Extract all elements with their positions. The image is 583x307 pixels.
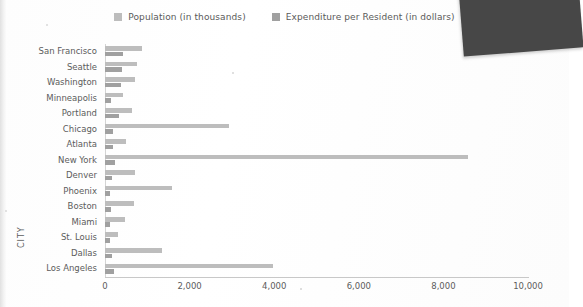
x-axis-tick-labels: 02,0004,0006,0008,00010,000 xyxy=(0,281,569,301)
bar-group xyxy=(105,106,528,122)
bar-group xyxy=(105,153,528,169)
bar-group xyxy=(105,230,528,246)
scan-shadow-artifact xyxy=(459,0,583,57)
y-axis-tick-labels: San FranciscoSeattleWashingtonMinneapoli… xyxy=(0,44,101,277)
bar-population[interactable] xyxy=(105,170,135,175)
y-axis-category-label: San Francisco xyxy=(0,44,101,60)
legend-swatch-icon xyxy=(272,13,280,21)
bar-expenditure[interactable] xyxy=(105,98,111,103)
plot-area xyxy=(105,44,528,277)
bar-group xyxy=(105,75,528,91)
bar-expenditure[interactable] xyxy=(105,114,119,119)
y-axis-category-label: Miami xyxy=(0,215,101,231)
y-axis-title: CITY xyxy=(17,226,26,248)
legend-label: Population (in thousands) xyxy=(128,12,246,22)
bar-population[interactable] xyxy=(105,77,135,82)
bar-population[interactable] xyxy=(105,62,137,67)
y-axis-category-label: Los Angeles xyxy=(0,261,101,277)
y-axis-category-label: Boston xyxy=(0,199,101,215)
y-axis-category-label: Dallas xyxy=(0,246,101,262)
bar-expenditure[interactable] xyxy=(105,222,110,227)
bar-expenditure[interactable] xyxy=(105,254,112,259)
x-axis-tick-label: 2,000 xyxy=(177,281,201,291)
bar-expenditure[interactable] xyxy=(105,129,113,134)
bar-expenditure[interactable] xyxy=(105,238,110,243)
bar-population[interactable] xyxy=(105,93,123,98)
bar-group xyxy=(105,137,528,153)
bar-group xyxy=(105,199,528,215)
y-axis-category-label: Washington xyxy=(0,75,101,91)
bar-expenditure[interactable] xyxy=(105,67,122,72)
legend-swatch-icon xyxy=(114,13,122,21)
bar-population[interactable] xyxy=(105,201,134,206)
bar-population[interactable] xyxy=(105,124,229,129)
y-axis-category-label: New York xyxy=(0,153,101,169)
bar-expenditure[interactable] xyxy=(105,191,110,196)
y-axis-category-label: Minneapolis xyxy=(0,91,101,107)
bar-group xyxy=(105,184,528,200)
scan-speck xyxy=(232,72,234,74)
legend-item[interactable]: Population (in thousands) xyxy=(114,12,246,22)
bar-population[interactable] xyxy=(105,217,125,222)
y-axis-category-label: Denver xyxy=(0,168,101,184)
y-axis-category-label: Portland xyxy=(0,106,101,122)
x-axis-line xyxy=(105,277,529,278)
bar-group xyxy=(105,246,528,262)
bar-population[interactable] xyxy=(105,232,118,237)
x-axis-tick-label: 0 xyxy=(102,281,107,291)
bar-expenditure[interactable] xyxy=(105,176,112,181)
y-axis-category-label: Phoenix xyxy=(0,184,101,200)
bar-group xyxy=(105,261,528,277)
bar-population[interactable] xyxy=(105,108,132,113)
bar-expenditure[interactable] xyxy=(105,145,113,150)
bar-group xyxy=(105,60,528,76)
bar-group xyxy=(105,215,528,231)
bar-group xyxy=(105,91,528,107)
x-axis-tick-label: 8,000 xyxy=(431,281,455,291)
bar-population[interactable] xyxy=(105,139,126,144)
bar-expenditure[interactable] xyxy=(105,269,114,274)
x-axis-tick-label: 10,000 xyxy=(513,281,543,291)
scan-speck xyxy=(46,24,48,26)
legend-item[interactable]: Expenditure per Resident (in dollars) xyxy=(272,12,455,22)
bar-population[interactable] xyxy=(105,264,273,269)
bar-group xyxy=(105,122,528,138)
y-axis-category-label: Seattle xyxy=(0,60,101,76)
legend-label: Expenditure per Resident (in dollars) xyxy=(286,12,455,22)
y-axis-category-label: St. Louis xyxy=(0,230,101,246)
bar-expenditure[interactable] xyxy=(105,207,111,212)
x-axis-tick-label: 4,000 xyxy=(262,281,286,291)
y-axis-category-label: Chicago xyxy=(0,122,101,138)
scan-speck xyxy=(300,288,302,290)
bar-expenditure[interactable] xyxy=(105,83,121,88)
bar-population[interactable] xyxy=(105,248,162,253)
scan-speck xyxy=(5,210,7,212)
bar-group xyxy=(105,168,528,184)
bar-population[interactable] xyxy=(105,46,142,51)
bar-population[interactable] xyxy=(105,186,172,191)
bar-population[interactable] xyxy=(105,155,468,160)
bar-expenditure[interactable] xyxy=(105,52,123,57)
x-axis-tick-label: 6,000 xyxy=(347,281,371,291)
y-axis-category-label: Atlanta xyxy=(0,137,101,153)
bar-expenditure[interactable] xyxy=(105,160,115,165)
